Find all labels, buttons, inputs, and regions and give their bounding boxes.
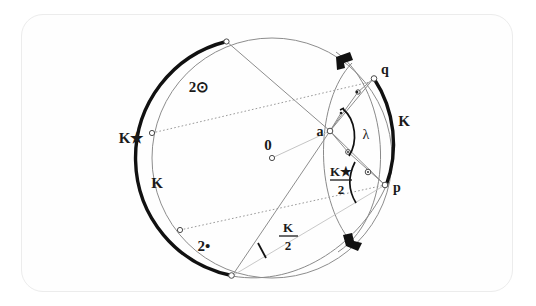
label-center-zero: 0 bbox=[264, 137, 272, 153]
node-p-inner-dot bbox=[367, 171, 369, 173]
inner-arc-lower bbox=[232, 186, 386, 278]
node-a bbox=[327, 128, 333, 134]
label-arc-k-star: K★ bbox=[119, 130, 145, 146]
node-mid-p-dot bbox=[347, 151, 349, 153]
segment-a-to-mid-p bbox=[330, 131, 348, 152]
node-bottom bbox=[229, 273, 235, 279]
chord-a-to-bottom bbox=[232, 131, 330, 276]
thick-arc-right bbox=[374, 79, 394, 187]
chord-bottom-to-p bbox=[232, 185, 385, 276]
label-two-sun: 2⊙ bbox=[189, 79, 210, 95]
label-frac-kstar-denominator: 2 bbox=[338, 182, 345, 197]
page-root: .thin { fill:none; stroke:#8d8d8d; strok… bbox=[0, 0, 536, 306]
node-center bbox=[269, 155, 274, 160]
node-kstar-end bbox=[149, 130, 154, 135]
node-p bbox=[382, 182, 388, 188]
label-point-p: p bbox=[393, 180, 401, 195]
label-frac-k-numerator: K bbox=[283, 220, 294, 235]
dotted-diameter-kstar bbox=[152, 82, 370, 133]
angle-tick-k-half bbox=[258, 243, 266, 258]
label-frac-kstar-numerator: K★ bbox=[330, 164, 352, 179]
label-two-dot: 2• bbox=[198, 238, 211, 254]
node-top bbox=[224, 39, 229, 44]
label-point-a: a bbox=[317, 124, 324, 139]
label-frac-k-denominator: 2 bbox=[285, 238, 292, 253]
node-arc-top-dot bbox=[340, 112, 343, 115]
node-upper-dot bbox=[356, 91, 359, 94]
chord-top-to-a bbox=[226, 41, 330, 131]
node-q bbox=[371, 76, 377, 82]
label-point-q: q bbox=[381, 62, 389, 77]
label-arc-k-left: K bbox=[151, 175, 163, 191]
label-arc-k-right: K bbox=[398, 113, 410, 129]
geometry-diagram: .thin { fill:none; stroke:#8d8d8d; strok… bbox=[0, 0, 536, 306]
segment-mid-p-to-p bbox=[348, 152, 385, 185]
right-angle-marker-bottom bbox=[343, 233, 362, 251]
node-lower-left bbox=[177, 227, 182, 232]
label-lambda: λ bbox=[363, 127, 370, 142]
